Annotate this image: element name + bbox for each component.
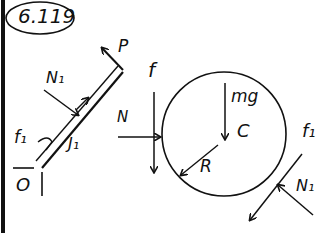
label-n1-disk: N₁ (296, 178, 314, 194)
free-body-diagram (0, 0, 327, 233)
label-f1-disk: f₁ (302, 122, 316, 140)
diagram-canvas: 6.119 P N₁ f₁ J₁ O f N mg C R f₁ N₁ (0, 0, 327, 233)
label-o: O (16, 176, 30, 194)
label-f: f (148, 60, 155, 80)
problem-number: 6.119 (18, 6, 75, 26)
label-mg: mg (231, 88, 258, 105)
friction-f1-curve (38, 138, 52, 150)
label-f1-rod: f₁ (14, 129, 27, 146)
label-n1-rod: N₁ (46, 70, 64, 86)
friction-f1-disk-arrow (250, 154, 302, 220)
label-j1: J₁ (68, 136, 79, 152)
label-r: R (200, 158, 212, 175)
label-p: P (118, 38, 128, 55)
disk-circle (162, 72, 286, 196)
label-c: C (237, 122, 250, 140)
normal-n1-rod-arrow (44, 90, 78, 115)
label-n: N (117, 110, 128, 125)
